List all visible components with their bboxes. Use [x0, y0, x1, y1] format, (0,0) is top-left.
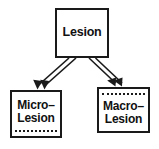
diagram-canvas: Lesion Micro– Lesion Macro– Lesion — [0, 0, 159, 149]
node-micro-lesion[interactable]: Micro– Lesion — [10, 90, 62, 138]
arrow-lesion-to-macro-lesion — [89, 58, 123, 87]
node-lesion[interactable]: Lesion — [55, 8, 109, 58]
macro-lesion-dotted-divider — [102, 93, 145, 95]
node-micro-lesion-label: Micro– Lesion — [17, 99, 54, 124]
arrow-lesion-to-micro-lesion — [33, 58, 76, 90]
node-macro-lesion-label: Macro– Lesion — [103, 100, 144, 125]
node-lesion-label: Lesion — [62, 26, 101, 39]
node-macro-lesion[interactable]: Macro– Lesion — [97, 87, 150, 133]
micro-lesion-dotted-divider — [15, 130, 57, 132]
